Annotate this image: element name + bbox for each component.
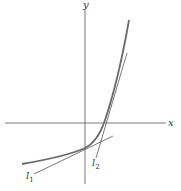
l2-subscript: 2 (95, 163, 99, 171)
tangent-lines-diagram: y x l1 l2 (0, 0, 181, 191)
y-axis-label: y (82, 0, 89, 10)
l2-label: l2 (92, 157, 100, 171)
tangent-line-l2 (96, 53, 127, 158)
l1-label: l1 (26, 170, 34, 184)
l1-subscript: 1 (29, 176, 33, 184)
x-axis-label: x (168, 117, 174, 128)
exponential-curve (22, 20, 129, 164)
